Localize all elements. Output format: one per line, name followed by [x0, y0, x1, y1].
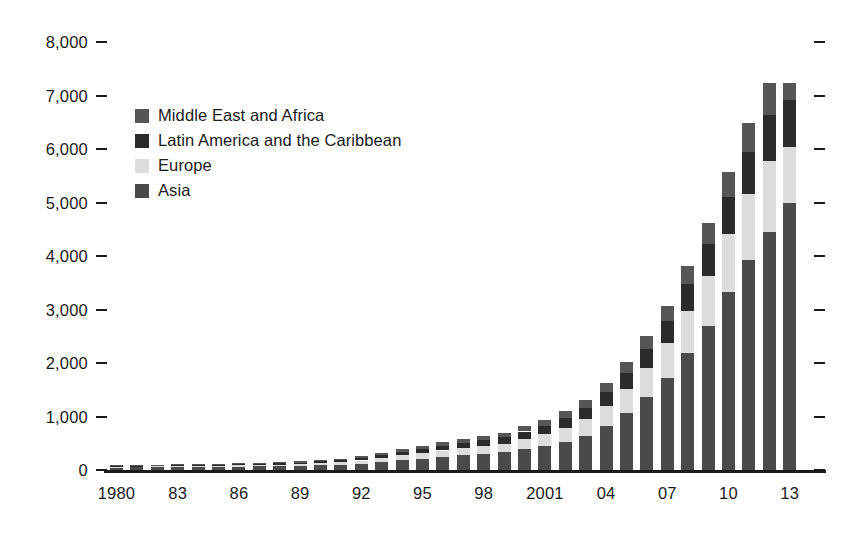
- bar-1991: [334, 0, 347, 470]
- bar-segment-europe: [314, 463, 327, 465]
- bar-segment-latin-america-and-the-caribbean: [742, 152, 755, 194]
- bar-segment-middle-east-and-africa: [518, 426, 531, 431]
- legend-swatch-icon: [135, 134, 149, 148]
- bar-segment-middle-east-and-africa: [355, 456, 368, 458]
- legend-item: Latin America and the Caribbean: [135, 128, 401, 153]
- bar-segment-europe: [457, 448, 470, 455]
- bar-segment-middle-east-and-africa: [538, 420, 551, 426]
- bar-2005: [620, 0, 633, 470]
- bar-segment-latin-america-and-the-caribbean: [783, 100, 796, 147]
- bar-segment-latin-america-and-the-caribbean: [212, 465, 225, 466]
- bar-segment-latin-america-and-the-caribbean: [396, 452, 409, 456]
- bar-segment-europe: [722, 234, 735, 292]
- bar-segment-middle-east-and-africa: [375, 453, 388, 455]
- bar-segment-europe: [212, 466, 225, 467]
- bar-1989: [294, 0, 307, 470]
- bar-segment-middle-east-and-africa: [192, 464, 205, 465]
- bar-segment-latin-america-and-the-caribbean: [763, 115, 776, 162]
- bar-segment-asia: [538, 446, 551, 470]
- bar-segment-middle-east-and-africa: [436, 442, 449, 445]
- x-tick-label: 86: [230, 484, 249, 503]
- bar-segment-latin-america-and-the-caribbean: [436, 446, 449, 451]
- bar-2007: [661, 0, 674, 470]
- legend-swatch-icon: [135, 159, 149, 173]
- bar-segment-middle-east-and-africa: [171, 464, 184, 465]
- bar-segment-asia: [742, 260, 755, 470]
- x-tick-label: 1980: [98, 484, 136, 503]
- legend-item: Asia: [135, 178, 401, 203]
- bar-segment-latin-america-and-the-caribbean: [294, 463, 307, 464]
- bar-segment-europe: [518, 439, 531, 449]
- bar-segment-europe: [253, 465, 266, 466]
- bar-segment-asia: [396, 460, 409, 470]
- bar-segment-europe: [273, 465, 286, 467]
- bar-segment-middle-east-and-africa: [600, 383, 613, 392]
- bar-segment-middle-east-and-africa: [457, 439, 470, 443]
- bar-segment-asia: [702, 326, 715, 470]
- bar-segment-europe: [334, 462, 347, 465]
- bar-2012: [763, 0, 776, 470]
- bar-segment-europe: [559, 428, 572, 442]
- bar-segment-latin-america-and-the-caribbean: [375, 455, 388, 458]
- bar-segment-asia: [640, 397, 653, 470]
- bar-2011: [742, 0, 755, 470]
- bar-2008: [681, 0, 694, 470]
- legend-label: Latin America and the Caribbean: [158, 131, 401, 150]
- bar-segment-middle-east-and-africa: [722, 172, 735, 197]
- x-tick-label: 10: [719, 484, 738, 503]
- bar-2010: [722, 0, 735, 470]
- x-tick-label: 13: [780, 484, 799, 503]
- bar-1997: [457, 0, 470, 470]
- bar-segment-asia: [498, 452, 511, 470]
- bar-segment-europe: [661, 343, 674, 378]
- bar-segment-latin-america-and-the-caribbean: [722, 197, 735, 234]
- bar-segment-asia: [559, 442, 572, 470]
- bar-segment-middle-east-and-africa: [640, 336, 653, 349]
- bar-segment-europe: [151, 466, 164, 467]
- bar-segment-asia: [436, 457, 449, 470]
- bar-segment-middle-east-and-africa: [334, 459, 347, 460]
- bar-segment-europe: [192, 466, 205, 467]
- bar-segment-latin-america-and-the-caribbean: [661, 321, 674, 343]
- bar-segment-europe: [477, 446, 490, 454]
- bar-segment-middle-east-and-africa: [498, 433, 511, 438]
- bar-segment-latin-america-and-the-caribbean: [579, 408, 592, 420]
- legend-swatch-icon: [135, 109, 149, 123]
- bar-segment-middle-east-and-africa: [151, 465, 164, 466]
- bar-segment-europe: [640, 368, 653, 397]
- bar-segment-middle-east-and-africa: [396, 449, 409, 452]
- bar-segment-europe: [110, 467, 123, 468]
- bar-2006: [640, 0, 653, 470]
- bar-1998: [477, 0, 490, 470]
- bar-1981: [130, 0, 143, 470]
- bar-segment-europe: [742, 194, 755, 260]
- bar-segment-middle-east-and-africa: [661, 306, 674, 321]
- x-tick-label: 04: [597, 484, 616, 503]
- x-axis-line: [104, 470, 826, 473]
- bar-segment-latin-america-and-the-caribbean: [130, 466, 143, 467]
- bar-segment-latin-america-and-the-caribbean: [416, 449, 429, 453]
- bar-segment-latin-america-and-the-caribbean: [273, 463, 286, 464]
- bar-segment-europe: [783, 147, 796, 203]
- bar-segment-middle-east-and-africa: [110, 465, 123, 466]
- bar-2000: [518, 0, 531, 470]
- bar-segment-asia: [661, 378, 674, 470]
- bar-1980: [110, 0, 123, 470]
- bar-1990: [314, 0, 327, 470]
- bar-segment-europe: [355, 461, 368, 464]
- bar-segment-middle-east-and-africa: [702, 223, 715, 244]
- legend-swatch-icon: [135, 184, 149, 198]
- bar-segment-latin-america-and-the-caribbean: [518, 432, 531, 439]
- bar-segment-middle-east-and-africa: [232, 463, 245, 464]
- bar-1994: [396, 0, 409, 470]
- bar-segment-middle-east-and-africa: [253, 463, 266, 464]
- bar-segment-latin-america-and-the-caribbean: [151, 465, 164, 466]
- bar-segment-middle-east-and-africa: [620, 362, 633, 373]
- bar-segment-europe: [232, 465, 245, 466]
- bar-1995: [416, 0, 429, 470]
- bar-segment-asia: [620, 413, 633, 470]
- bar-segment-latin-america-and-the-caribbean: [334, 460, 347, 462]
- bar-segment-asia: [579, 436, 592, 470]
- bar-segment-europe: [294, 464, 307, 466]
- bar-segment-europe: [620, 389, 633, 413]
